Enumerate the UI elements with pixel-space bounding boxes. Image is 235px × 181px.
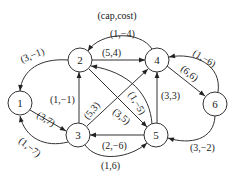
edge-label-3-5: (1,6) xyxy=(101,160,120,172)
node-label-5: 5 xyxy=(153,129,159,141)
edge-label-3-4: (5,3) xyxy=(81,100,103,122)
node-1: 1 xyxy=(8,91,32,115)
network-diagram: (cap,cost) (3,−1) (3,7) (1,−7) (1,−1) (5… xyxy=(0,0,235,181)
edge-label-5-3: (2,−6) xyxy=(102,140,127,152)
node-label-3: 3 xyxy=(75,129,81,141)
edge-2-1 xyxy=(20,60,68,91)
edge-label-6-5: (3,−2) xyxy=(190,142,215,154)
node-label-6: 6 xyxy=(212,98,218,110)
edge-label-3-1: (1,−7) xyxy=(16,135,43,160)
edge-label-4-6: (6,6) xyxy=(178,63,200,84)
edge-label-3-2: (1,−1) xyxy=(50,94,75,106)
edge-label-6-4: (1,−6) xyxy=(191,47,218,70)
node-2: 2 xyxy=(68,48,92,72)
node-4: 4 xyxy=(145,48,169,72)
edges-layer: (3,−1) (3,7) (1,−7) (1,−1) (5,4) (1,−4) … xyxy=(16,28,218,172)
edge-label-2-4: (5,4) xyxy=(102,47,121,59)
legend-cap-cost: (cap,cost) xyxy=(97,10,136,22)
edge-label-5-2: (1,−5) xyxy=(125,90,148,117)
edge-label-5-4: (3,3) xyxy=(161,90,180,102)
edge-6-5 xyxy=(168,116,215,141)
edge-label-1-3: (3,7) xyxy=(35,109,58,129)
edge-label-4-2: (1,−4) xyxy=(110,28,135,40)
node-label-1: 1 xyxy=(17,97,23,109)
node-6: 6 xyxy=(203,92,227,116)
node-label-2: 2 xyxy=(77,54,83,66)
node-3: 3 xyxy=(66,123,90,147)
node-5: 5 xyxy=(144,123,168,147)
node-label-4: 4 xyxy=(154,54,160,66)
